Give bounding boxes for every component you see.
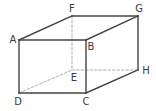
vertex-label-b: B (88, 42, 95, 52)
vertex-label-c: C (83, 97, 90, 107)
vertex-label-h: H (142, 66, 150, 76)
hidden-edge-DE (19, 70, 72, 93)
vertex-label-f: F (69, 4, 75, 14)
cuboid-diagram (0, 0, 156, 111)
edge-BG (86, 16, 138, 40)
vertex-label-a: A (10, 35, 17, 45)
edge-CH (86, 70, 138, 93)
cuboid-figure (0, 0, 156, 111)
vertex-label-e: E (71, 73, 77, 83)
vertex-label-d: D (14, 97, 22, 107)
edge-AF (19, 16, 72, 40)
vertex-label-g: G (135, 4, 143, 14)
